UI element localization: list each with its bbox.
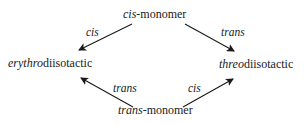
edge-label-trans-top: trans <box>221 26 245 39</box>
edge-label-trans-bottom: trans <box>113 82 137 95</box>
node-suffix: -monomer <box>136 7 186 21</box>
node-suffix: diisotactic <box>43 56 92 70</box>
node-suffix: diisotactic <box>244 57 293 71</box>
node-suffix: -monomer <box>143 103 193 117</box>
node-prefix: trans <box>118 103 143 117</box>
edge-label-cis-top: cis <box>86 26 99 39</box>
node-threodiisotactic: threodiisotactic <box>219 57 293 71</box>
edge-label-cis-bottom: cis <box>188 82 201 95</box>
node-prefix: erythro <box>8 56 43 70</box>
node-prefix: cis <box>123 7 136 21</box>
node-cis-monomer: cis-monomer <box>123 7 186 21</box>
node-prefix: threo <box>219 57 244 71</box>
node-erythrodiisotactic: erythrodiisotactic <box>8 56 92 70</box>
node-trans-monomer: trans-monomer <box>118 103 193 117</box>
